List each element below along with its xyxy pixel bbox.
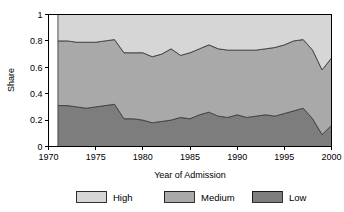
y-tick-label: 1 <box>37 10 42 20</box>
y-tick-label: 0.6 <box>30 63 43 73</box>
legend-swatch-high <box>76 191 106 202</box>
x-tick-label: 1975 <box>86 152 106 162</box>
x-tick-label: 2000 <box>321 152 341 162</box>
stacked-areas-group <box>58 15 332 147</box>
y-tick-label: 0.8 <box>30 36 43 46</box>
x-tick-label: 1970 <box>38 152 58 162</box>
chart-legend: HighMediumLow <box>76 191 307 203</box>
area-chart: 00.20.40.60.81 1970197519801985199019952… <box>0 0 344 212</box>
x-tick-label: 1980 <box>133 152 153 162</box>
y-tick-label: 0 <box>37 142 42 152</box>
y-tick-label: 0.2 <box>30 115 43 125</box>
legend-label-high: High <box>113 192 133 203</box>
x-tick-label: 1985 <box>180 152 200 162</box>
y-tick-label: 0.4 <box>30 89 43 99</box>
legend-label-low: Low <box>289 192 307 203</box>
y-axis-title: Share <box>6 68 16 92</box>
x-tick-label: 1995 <box>274 152 294 162</box>
legend-swatch-low <box>252 191 282 202</box>
legend-swatch-medium <box>164 191 194 202</box>
chart-container: 00.20.40.60.81 1970197519801985199019952… <box>0 0 344 212</box>
legend-label-medium: Medium <box>201 192 235 203</box>
x-axis-title: Year of Admission <box>154 170 226 180</box>
y-axis-ticks-group: 00.20.40.60.81 <box>30 10 49 152</box>
x-tick-label: 1990 <box>227 152 247 162</box>
